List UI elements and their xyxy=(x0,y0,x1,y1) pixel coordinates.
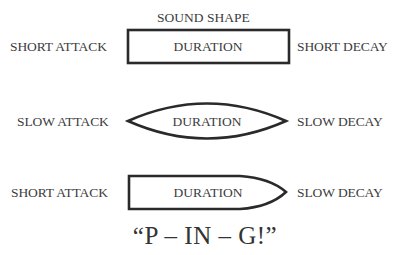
duration-label: DURATION xyxy=(174,186,243,200)
ping-caption: “P – IN – G!” xyxy=(133,223,277,248)
attack-label: SHORT ATTACK xyxy=(10,40,107,54)
diagram-title: SOUND SHAPE xyxy=(157,11,250,25)
duration-label: DURATION xyxy=(173,115,242,129)
duration-label: DURATION xyxy=(174,40,243,54)
attack-label: SLOW ATTACK xyxy=(17,115,109,129)
decay-label: SLOW DECAY xyxy=(297,186,383,200)
decay-label: SHORT DECAY xyxy=(297,40,388,54)
attack-label: SHORT ATTACK xyxy=(11,186,108,200)
decay-label: SLOW DECAY xyxy=(297,115,383,129)
